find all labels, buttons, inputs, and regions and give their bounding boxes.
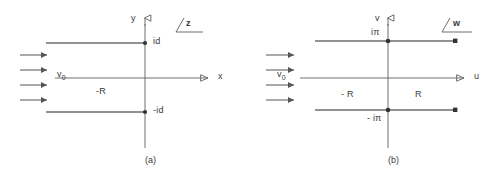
branch-point-upper-label: id xyxy=(153,37,160,46)
lower-branch-point-dot xyxy=(143,110,147,114)
lower-boundary-center-dot xyxy=(386,108,391,113)
upper-branch-point-dot xyxy=(143,41,147,45)
panel-b-w-plane: w v u iπ - iπ - R R v0 (b) xyxy=(252,0,504,176)
upper-boundary-end-dot xyxy=(453,39,457,43)
panel-a-z-plane: z y x id -id -R v0 (a) xyxy=(0,0,252,176)
region-left-label: -R xyxy=(96,87,106,96)
region-right-label: R xyxy=(415,90,422,99)
panel-a-caption: (a) xyxy=(145,155,156,165)
inflow-velocity-subscript: 0 xyxy=(62,74,66,81)
plane-tag-slash xyxy=(442,18,450,32)
lower-boundary-end-dot xyxy=(453,108,457,112)
u-axis-label: u xyxy=(474,72,479,81)
upper-boundary-center-dot xyxy=(386,39,391,44)
figure-container: z y x id -id -R v0 (a) xyxy=(0,0,504,176)
inflow-velocity-subscript: 0 xyxy=(282,74,286,81)
branch-point-upper-label: iπ xyxy=(371,28,380,37)
plane-label-w: w xyxy=(453,18,460,28)
v-axis-label: v xyxy=(375,14,380,23)
region-left-label: - R xyxy=(341,90,354,99)
branch-point-lower-label: -id xyxy=(153,106,164,115)
panel-a-drawing xyxy=(0,0,252,176)
y-axis-label: y xyxy=(131,14,136,23)
inflow-velocity-label: v0 xyxy=(277,70,286,81)
plane-label-z: z xyxy=(186,18,191,28)
x-axis-label: x xyxy=(218,72,223,81)
inflow-velocity-label: v0 xyxy=(57,70,66,81)
panel-b-caption: (b) xyxy=(388,155,399,165)
plane-tag-slash xyxy=(176,18,184,32)
branch-point-lower-label: - iπ xyxy=(367,114,382,123)
